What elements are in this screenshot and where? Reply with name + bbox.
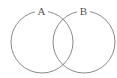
set-b-label: B — [80, 5, 87, 17]
set-a-circle — [11, 11, 73, 73]
venn-diagram: A B — [0, 0, 117, 78]
set-b-circle — [53, 11, 115, 73]
set-a-label: A — [38, 5, 46, 17]
